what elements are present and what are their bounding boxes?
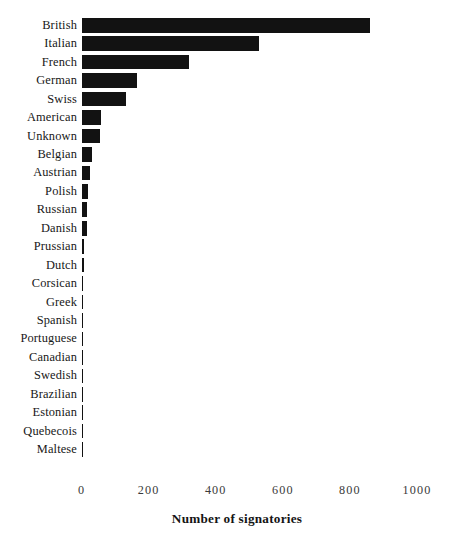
bar-track — [82, 55, 462, 70]
bar — [82, 387, 84, 402]
x-axis-title: Number of signatories — [0, 511, 474, 527]
bar-track — [82, 184, 462, 199]
x-tick-label: 0 — [78, 483, 85, 498]
bar-category-label: Swedish — [0, 366, 77, 384]
bar — [82, 442, 84, 457]
x-tick-label: 600 — [272, 483, 294, 498]
bar-track — [82, 202, 462, 217]
bar — [82, 129, 100, 144]
bar-row: Portuguese — [0, 329, 474, 347]
bar — [82, 110, 101, 125]
bar-track — [82, 313, 462, 328]
bar-category-label: Quebecois — [0, 422, 77, 440]
bar — [82, 18, 371, 33]
bar-row: Italian — [0, 34, 474, 52]
bar-row: Canadian — [0, 348, 474, 366]
bar-row: Estonian — [0, 403, 474, 421]
bar-track — [82, 73, 462, 88]
bar-track — [82, 166, 462, 181]
bar-track — [82, 18, 462, 33]
bar-track — [82, 442, 462, 457]
bar-row: Spanish — [0, 311, 474, 329]
bar-category-label: Corsican — [0, 274, 77, 292]
bar — [82, 55, 189, 70]
bar-row: Dutch — [0, 256, 474, 274]
bar-track — [82, 221, 462, 236]
bar-track — [82, 147, 462, 162]
bar — [82, 36, 260, 51]
bar-row: Unknown — [0, 127, 474, 145]
bar — [82, 92, 127, 107]
bar-track — [82, 387, 462, 402]
bar — [82, 166, 90, 181]
bar-track — [82, 332, 462, 347]
bar-category-label: Greek — [0, 293, 77, 311]
bar — [82, 332, 84, 347]
bar-row: Russian — [0, 200, 474, 218]
bar-row: German — [0, 71, 474, 89]
bar-category-label: Maltese — [0, 440, 77, 458]
bar-row: Polish — [0, 182, 474, 200]
bar-track — [82, 92, 462, 107]
bar — [82, 239, 85, 254]
bar-category-label: Swiss — [0, 90, 77, 108]
bar-category-label: Italian — [0, 34, 77, 52]
bar-row: Greek — [0, 293, 474, 311]
bar-row: Swiss — [0, 90, 474, 108]
bar-track — [82, 424, 462, 439]
bar-row: Quebecois — [0, 422, 474, 440]
bar-track — [82, 276, 462, 291]
bar-category-label: Austrian — [0, 163, 77, 181]
bar-chart: BritishItalianFrenchGermanSwissAmericanU… — [0, 0, 474, 537]
bar — [82, 221, 87, 236]
bar — [82, 313, 84, 328]
bar — [82, 147, 93, 162]
bar-row: Brazilian — [0, 385, 474, 403]
bar-row: Belgian — [0, 145, 474, 163]
x-axis: 02004006008001000 — [0, 479, 474, 509]
bar-track — [82, 36, 462, 51]
bar-category-label: Belgian — [0, 145, 77, 163]
plot-area: BritishItalianFrenchGermanSwissAmericanU… — [0, 0, 474, 480]
bar-category-label: Canadian — [0, 348, 77, 366]
bar-track — [82, 295, 462, 310]
bar-category-label: Dutch — [0, 256, 77, 274]
x-tick-label: 1000 — [403, 483, 432, 498]
bar-category-label: Prussian — [0, 237, 77, 255]
bar-category-label: Portuguese — [0, 329, 77, 347]
bar-row: Danish — [0, 219, 474, 237]
bar-track — [82, 369, 462, 384]
bar-category-label: American — [0, 108, 77, 126]
bar-row: Austrian — [0, 163, 474, 181]
bar — [82, 405, 84, 420]
bar-category-label: Danish — [0, 219, 77, 237]
bar — [82, 295, 84, 310]
bar — [82, 350, 84, 365]
bar-row: French — [0, 53, 474, 71]
bar-category-label: Polish — [0, 182, 77, 200]
bar — [82, 73, 137, 88]
x-tick-label: 800 — [339, 483, 361, 498]
bar — [82, 424, 84, 439]
bar — [82, 202, 88, 217]
bar-track — [82, 405, 462, 420]
bar — [82, 369, 84, 384]
bar-category-label: Russian — [0, 200, 77, 218]
bar-row: Maltese — [0, 440, 474, 458]
bar-track — [82, 129, 462, 144]
bar-track — [82, 350, 462, 365]
bar-category-label: German — [0, 71, 77, 89]
bar-track — [82, 239, 462, 254]
bar-track — [82, 258, 462, 273]
bar-track — [82, 110, 462, 125]
bar — [82, 276, 84, 291]
bar — [82, 184, 88, 199]
x-tick-label: 400 — [205, 483, 227, 498]
bar-category-label: French — [0, 53, 77, 71]
bar-row: British — [0, 16, 474, 34]
bar-category-label: Spanish — [0, 311, 77, 329]
bar-row: Swedish — [0, 366, 474, 384]
bar-category-label: Unknown — [0, 127, 77, 145]
bar-category-label: Brazilian — [0, 385, 77, 403]
bar — [82, 258, 84, 273]
